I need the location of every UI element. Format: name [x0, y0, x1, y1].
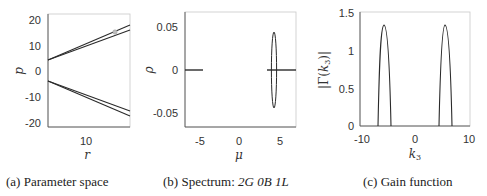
panel-b-spectrum: 0.05 0 -0.05 -5 0 5 μ ρ	[142, 12, 296, 162]
caption-a: (a) Parameter space	[6, 174, 109, 189]
ytick-label: 0.5	[339, 83, 354, 95]
xtick-label: 10	[463, 133, 475, 145]
panel-b-xlabel: μ	[235, 148, 243, 162]
ytick-label: -0.05	[153, 107, 178, 119]
ytick-label: 1	[348, 45, 354, 57]
marker-point	[113, 30, 117, 34]
ytick-label: -10	[25, 91, 41, 103]
panel-b-ylabel: ρ	[142, 66, 156, 74]
ytick-label: 20	[29, 14, 41, 26]
caption-b: (b) Spectrum: 2G 0B 1L	[163, 174, 289, 189]
panel-c-ylabel: |Γ(k3)|	[317, 51, 332, 89]
panel-c-gain-function: 1.5 1 0.5 0 -10 0 10 k3 |Γ(k3)|	[317, 7, 475, 162]
ytick-label: 0	[35, 65, 41, 77]
panel-a-curves	[48, 25, 130, 116]
ytick-label: 10	[29, 40, 41, 52]
panel-c-xlabel: k3	[409, 147, 421, 162]
panel-a-xlabel: r	[84, 148, 91, 162]
panel-a-frame	[48, 14, 130, 127]
panel-a-parameter-space: 20 10 0 -10 -20 10 r p	[12, 14, 130, 162]
ytick-label: 0	[348, 120, 354, 132]
ytick-label: 0	[172, 64, 178, 76]
ytick-label: 1.5	[339, 7, 354, 19]
xtick-label: -5	[195, 135, 205, 147]
panel-b-yticks: 0.05 0 -0.05	[153, 21, 178, 119]
panel-a-yticks: 20 10 0 -10 -20	[25, 14, 41, 129]
ytick-label: -20	[25, 117, 41, 129]
panel-c-xticks: -10 0 10	[354, 133, 475, 145]
panel-b-xticks: -5 0 5	[195, 135, 283, 147]
xtick-label: 10	[80, 135, 92, 147]
panel-b-spectrum-curves	[185, 32, 296, 108]
panel-c-frame	[360, 12, 470, 126]
xtick-label: 5	[277, 135, 283, 147]
xtick-label: -10	[354, 133, 370, 145]
xtick-label: 0	[236, 135, 242, 147]
panel-a-ylabel: p	[12, 67, 26, 75]
panel-c-yticks: 1.5 1 0.5 0	[339, 7, 354, 132]
caption-c: (c) Gain function	[363, 174, 453, 189]
xtick-label: 0	[412, 133, 418, 145]
ytick-label: 0.05	[157, 21, 178, 33]
figure: 20 10 0 -10 -20 10 r p 0.05 0 -0.05 -5 0	[0, 0, 487, 196]
panel-c-gain-curves	[378, 25, 452, 126]
